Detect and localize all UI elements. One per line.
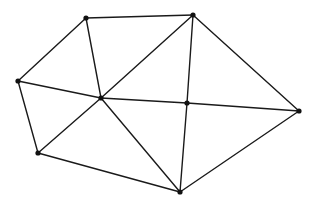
node-bot <box>177 189 182 194</box>
node-bl <box>35 150 40 155</box>
node-r <box>296 108 301 113</box>
node-a <box>83 15 88 20</box>
diagram-background <box>0 0 318 206</box>
node-c <box>98 95 103 100</box>
node-l <box>15 78 20 83</box>
graph-diagram <box>0 0 318 206</box>
node-m <box>184 100 189 105</box>
node-b <box>190 12 195 17</box>
